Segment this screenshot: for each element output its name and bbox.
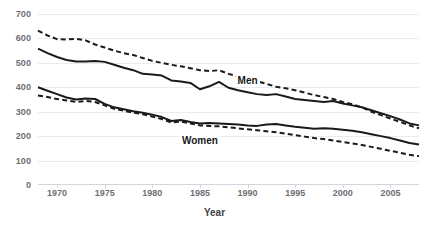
x-axis-labels: 19701975198019851990199520002005 xyxy=(38,188,419,206)
series-line xyxy=(38,49,419,126)
y-axis-labels: 700 600 500 400 300 200 100 0 xyxy=(0,14,33,185)
y-tick-label: 0 xyxy=(0,180,31,190)
y-tick-label: 100 xyxy=(0,156,31,166)
series-label-women: Women xyxy=(180,135,220,146)
x-tick-mark xyxy=(200,185,201,188)
y-tick-label: 400 xyxy=(0,82,31,92)
x-tick-label: 1985 xyxy=(190,188,210,198)
x-tick-mark xyxy=(343,185,344,188)
x-tick-label: 1995 xyxy=(285,188,305,198)
x-tick-mark xyxy=(57,185,58,188)
line-chart: 700 600 500 400 300 200 100 0 Men Women … xyxy=(0,0,429,244)
x-tick-label: 2000 xyxy=(333,188,353,198)
x-tick-label: 2005 xyxy=(380,188,400,198)
x-tick-mark xyxy=(152,185,153,188)
y-tick-label: 200 xyxy=(0,131,31,141)
x-tick-mark xyxy=(248,185,249,188)
x-tick-mark xyxy=(390,185,391,188)
series-line xyxy=(38,31,419,129)
plot-area: Men Women xyxy=(38,14,419,185)
series-line xyxy=(38,87,419,144)
chart-title xyxy=(0,0,429,1)
y-tick-label: 300 xyxy=(0,107,31,117)
y-tick-label: 700 xyxy=(0,9,31,19)
x-tick-label: 1970 xyxy=(47,188,67,198)
x-tick-mark xyxy=(105,185,106,188)
series-lines xyxy=(38,14,419,185)
series-line xyxy=(38,96,419,157)
x-axis-title: Year xyxy=(0,207,429,218)
series-label-men: Men xyxy=(236,75,260,86)
x-tick-label: 1980 xyxy=(142,188,162,198)
x-tick-label: 1975 xyxy=(95,188,115,198)
x-tick-label: 1990 xyxy=(238,188,258,198)
y-tick-label: 600 xyxy=(0,33,31,43)
y-tick-label: 500 xyxy=(0,58,31,68)
x-tick-mark xyxy=(295,185,296,188)
